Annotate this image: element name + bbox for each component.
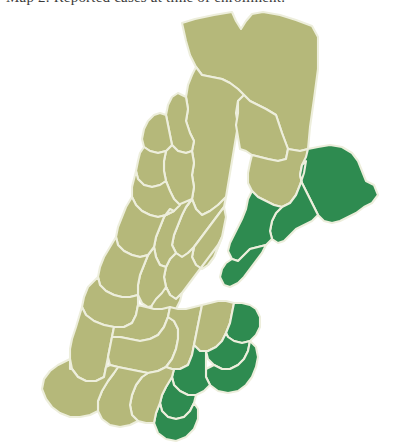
counties-layer xyxy=(42,12,378,441)
caption-strip: Map 2. Reported cases at time of enrollm… xyxy=(0,0,398,9)
new-england-county-map xyxy=(0,9,398,445)
county-vt-essex-orleans xyxy=(142,113,172,153)
figure-caption: Map 2. Reported cases at time of enrollm… xyxy=(6,0,285,6)
map-svg xyxy=(0,9,398,445)
